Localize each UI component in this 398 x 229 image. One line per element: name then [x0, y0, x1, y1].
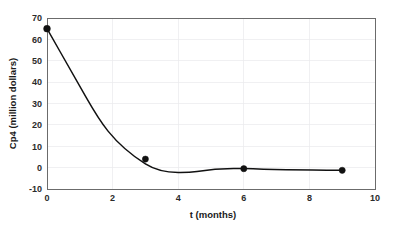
y-tick-label-0: 0 — [37, 163, 42, 173]
chart-background — [0, 0, 398, 229]
data-point-t0 — [44, 25, 51, 32]
y-tick-label-10: 10 — [32, 142, 42, 152]
y-tick-label-30: 30 — [32, 99, 42, 109]
y-tick-label-20: 20 — [32, 120, 42, 130]
y-axis-title: Cp4 (million dollars) — [7, 58, 18, 149]
chart-page: 70 60 50 40 30 20 10 0 -10 0 2 4 6 8 10 … — [0, 0, 398, 229]
data-point-t6 — [241, 166, 247, 172]
data-point-t9 — [339, 167, 345, 173]
x-tick-label-10: 10 — [370, 193, 380, 203]
x-tick-label-2: 2 — [110, 193, 115, 203]
y-tick-label-minus-10: -10 — [29, 184, 42, 194]
x-tick-label-4: 4 — [176, 193, 181, 203]
y-tick-label-40: 40 — [32, 77, 42, 87]
x-tick-label-0: 0 — [44, 193, 49, 203]
x-tick-label-6: 6 — [241, 193, 246, 203]
x-axis-title: t (months) — [190, 209, 236, 220]
line-chart: 70 60 50 40 30 20 10 0 -10 0 2 4 6 8 10 … — [0, 0, 398, 229]
y-tick-label-50: 50 — [32, 56, 42, 66]
x-tick-label-8: 8 — [307, 193, 312, 203]
data-point-t3 — [142, 156, 148, 162]
y-tick-label-70: 70 — [32, 13, 42, 23]
y-tick-label-60: 60 — [32, 35, 42, 45]
